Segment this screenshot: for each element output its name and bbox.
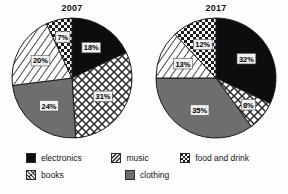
chart-title-2007: 2007 bbox=[0, 3, 144, 13]
pie-label-books: 31% bbox=[95, 92, 110, 101]
chart-title-2017: 2017 bbox=[144, 3, 288, 13]
pie-2017-svg: 32%8%35%13%12% bbox=[154, 16, 278, 140]
swatch-clothing-icon bbox=[125, 170, 135, 180]
legend-item-electronics[interactable]: electronics bbox=[26, 153, 98, 163]
legend-item-books[interactable]: books bbox=[26, 170, 112, 180]
pie-label-clothing: 24% bbox=[42, 102, 57, 111]
pie-chart-figure: 2007 bbox=[0, 0, 288, 194]
legend-row-1: electronics music food and drink bbox=[26, 149, 262, 166]
chart-2007: 2007 bbox=[0, 0, 144, 146]
charts-row: 2007 bbox=[0, 0, 288, 146]
pie-label-music: 13% bbox=[175, 60, 190, 69]
legend-item-clothing[interactable]: clothing bbox=[125, 170, 191, 180]
legend-label-books: books bbox=[41, 170, 64, 180]
legend: electronics music food and drink books c… bbox=[0, 146, 288, 194]
pie-label-clothing: 35% bbox=[192, 106, 207, 115]
pie-label-electronics: 32% bbox=[239, 55, 254, 64]
pie-label-electronics: 18% bbox=[84, 43, 99, 52]
legend-label-music: music bbox=[126, 153, 148, 163]
pie-2007-svg: 18%31%24%20%7% bbox=[10, 16, 134, 140]
swatch-electronics-icon bbox=[26, 153, 36, 163]
legend-row-2: books clothing bbox=[26, 166, 262, 183]
swatch-music-icon bbox=[111, 153, 121, 163]
chart-2017: 2017 bbox=[144, 0, 288, 146]
legend-label-food-and-drink: food and drink bbox=[195, 153, 249, 163]
legend-item-music[interactable]: music bbox=[111, 153, 167, 163]
legend-item-food-and-drink[interactable]: food and drink bbox=[180, 153, 249, 163]
pie-label-food-and-drink: 12% bbox=[195, 40, 210, 49]
pie-label-food-and-drink: 7% bbox=[57, 33, 68, 42]
pie-2017-wrap: 32%8%35%13%12% bbox=[154, 16, 278, 140]
swatch-books-icon bbox=[26, 170, 36, 180]
legend-label-clothing: clothing bbox=[140, 170, 169, 180]
pie-2007-wrap: 18%31%24%20%7% bbox=[10, 16, 134, 140]
legend-label-electronics: electronics bbox=[41, 153, 82, 163]
pie-label-books: 8% bbox=[243, 101, 254, 110]
pie-2007-slices bbox=[12, 18, 132, 138]
swatch-food-and-drink-icon bbox=[180, 153, 190, 163]
pie-label-music: 20% bbox=[33, 56, 48, 65]
pie-2017-slices bbox=[156, 18, 276, 138]
